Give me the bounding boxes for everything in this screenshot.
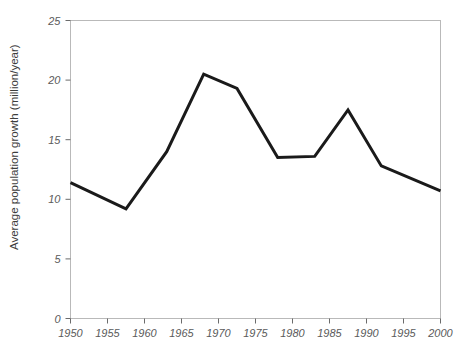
y-tick-label: 5 — [54, 253, 61, 265]
y-tick-label: 25 — [47, 15, 61, 27]
y-tick-label: 0 — [54, 313, 61, 325]
x-tick-label: 1950 — [58, 327, 83, 339]
x-tick-label: 1990 — [354, 327, 379, 339]
x-tick-label: 1975 — [243, 327, 268, 339]
x-tick-label: 2000 — [427, 327, 453, 339]
x-tick-label: 1985 — [317, 327, 342, 339]
y-axis-tick-marks — [66, 21, 71, 319]
x-tick-label: 1995 — [391, 327, 416, 339]
population-growth-chart: 1950195519601965197019751980198519901995… — [0, 0, 467, 349]
y-tick-label: 15 — [48, 134, 61, 146]
x-tick-label: 1965 — [169, 327, 194, 339]
x-axis-tick-labels: 1950195519601965197019751980198519901995… — [58, 327, 453, 339]
y-tick-label: 20 — [47, 74, 61, 86]
data-series-line — [71, 74, 441, 209]
chart-canvas: 1950195519601965197019751980198519901995… — [0, 0, 467, 349]
x-axis-tick-marks — [71, 319, 441, 324]
plot-area-frame — [71, 21, 441, 319]
x-tick-label: 1980 — [280, 327, 305, 339]
y-tick-label: 10 — [48, 193, 61, 205]
y-axis-tick-labels: 0510152025 — [47, 15, 61, 325]
x-tick-label: 1955 — [95, 327, 120, 339]
y-axis-title: Average population growth (million/year) — [8, 44, 20, 250]
x-tick-label: 1960 — [132, 327, 157, 339]
x-tick-label: 1970 — [206, 327, 231, 339]
